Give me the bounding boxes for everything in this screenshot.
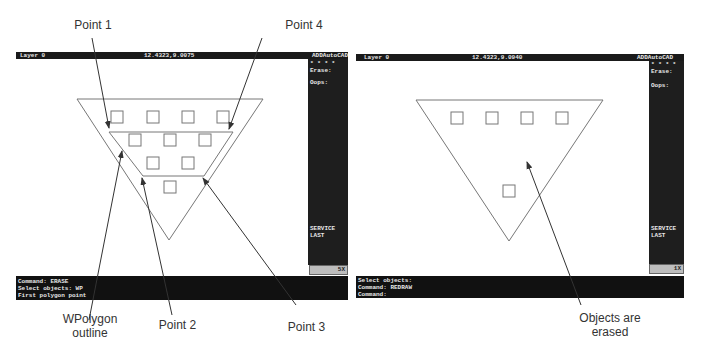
leader-point3 bbox=[203, 178, 296, 305]
right-square-objects bbox=[451, 112, 568, 197]
callout-objects-erased: Objects are erased bbox=[570, 311, 650, 339]
leader-point2 bbox=[142, 178, 172, 315]
leader-erased bbox=[527, 162, 581, 305]
leader-wpolygon bbox=[89, 151, 122, 320]
callout-erased-line2: erased bbox=[570, 325, 650, 339]
callout-erased-line1: Objects are bbox=[570, 311, 650, 325]
callout-wpolygon: WPolygon outline bbox=[60, 312, 120, 340]
leader-point4 bbox=[229, 38, 262, 129]
callout-wpolygon-line2: outline bbox=[60, 326, 120, 340]
wpolygon-outline bbox=[109, 132, 233, 176]
callout-wpolygon-line1: WPolygon bbox=[60, 312, 120, 326]
callout-point3: Point 3 bbox=[279, 320, 334, 334]
left-square-objects bbox=[111, 111, 229, 193]
drawing-canvas bbox=[0, 0, 701, 353]
leader-point1 bbox=[92, 38, 109, 128]
left-triangle bbox=[77, 99, 263, 240]
left-leader-lines bbox=[89, 38, 296, 320]
right-leader-lines bbox=[527, 162, 581, 305]
callout-point2: Point 2 bbox=[150, 318, 205, 332]
callout-point4: Point 4 bbox=[279, 18, 329, 32]
right-triangle bbox=[416, 100, 603, 241]
callout-point1: Point 1 bbox=[68, 18, 118, 32]
